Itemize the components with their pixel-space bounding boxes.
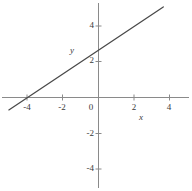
x-tick-label-neg4: -4 bbox=[21, 103, 33, 112]
x-tick-label-4: 4 bbox=[164, 103, 174, 112]
y-tick-label-neg4: -4 bbox=[80, 164, 94, 173]
y-tick-label-neg2: -2 bbox=[80, 129, 94, 138]
y-tick-label-4: 4 bbox=[84, 21, 94, 30]
y-tick-label-2: 2 bbox=[84, 56, 94, 65]
chart-screenshot: -4 -2 2 4 0 4 2 -2 -4 y x bbox=[0, 0, 192, 191]
x-tick-label-neg2: -2 bbox=[56, 103, 68, 112]
x-axis-label: x bbox=[139, 113, 143, 122]
x-tick-label-2: 2 bbox=[129, 103, 139, 112]
origin-label: 0 bbox=[86, 103, 96, 112]
y-axis-label: y bbox=[70, 46, 74, 55]
coordinate-plane-svg bbox=[0, 0, 192, 191]
